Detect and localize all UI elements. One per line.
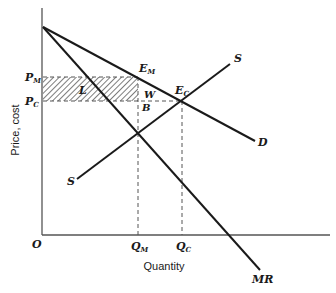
supply-label-upper: S (234, 52, 242, 65)
mr-label: MR (251, 273, 273, 286)
pm-label: PM (24, 71, 41, 85)
diagram-canvas: Price, cost Quantity O PM PC QM QC EM EC… (0, 0, 336, 293)
supply-label-lower: S (67, 175, 75, 188)
b-label: B (141, 102, 150, 113)
pc-label: PC (24, 95, 39, 109)
w-label: W (144, 89, 157, 100)
ec-label: EC (174, 84, 189, 98)
demand-label: D (257, 136, 268, 149)
origin-label: O (32, 238, 42, 251)
qm-label: QM (131, 240, 149, 254)
qc-label: QC (176, 240, 192, 254)
em-label: EM (138, 62, 155, 76)
l-label: L (78, 84, 87, 97)
x-axis-label: Quantity (144, 260, 185, 272)
y-axis-label: Price, cost (9, 104, 21, 155)
marginal-revenue-curve (43, 27, 260, 270)
